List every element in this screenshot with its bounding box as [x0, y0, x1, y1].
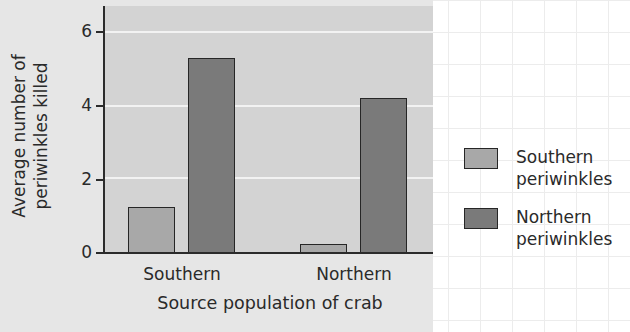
- y-tick-label-4: 4: [72, 97, 92, 114]
- x-category-northern: Northern: [284, 264, 424, 284]
- y-tick-6: [96, 31, 104, 33]
- y-tick-label-0: 0: [72, 244, 92, 261]
- y-axis-title-line-2: periwinkles killed: [30, 6, 52, 266]
- legend-label-northern: Northern periwinkles: [516, 206, 612, 250]
- y-tick-4: [96, 105, 104, 107]
- bar-southern-crab-northern-periwinkles: [188, 58, 235, 253]
- legend-label-southern: Southern periwinkles: [516, 146, 612, 190]
- y-axis-title-line-1: Average number of: [8, 6, 30, 266]
- legend-swatch-southern: [464, 148, 498, 169]
- y-axis-title: Average number of periwinkles killed: [8, 6, 52, 266]
- legend-label-northern-line-2: periwinkles: [516, 228, 612, 250]
- legend-label-southern-line-1: Southern: [516, 146, 612, 168]
- bar-northern-crab-northern-periwinkles: [360, 98, 407, 253]
- y-tick-0: [96, 252, 104, 254]
- y-tick-label-2: 2: [72, 171, 92, 188]
- legend-swatch-northern: [464, 208, 498, 229]
- legend-label-northern-line-1: Northern: [516, 206, 612, 228]
- y-axis: [103, 6, 105, 254]
- x-category-southern: Southern: [112, 264, 252, 284]
- legend-label-southern-line-2: periwinkles: [516, 168, 612, 190]
- y-tick-label-6: 6: [72, 23, 92, 40]
- x-axis: [103, 252, 433, 254]
- x-axis-title: Source population of crab: [110, 293, 430, 313]
- bar-southern-crab-southern-periwinkles: [128, 207, 175, 253]
- y-tick-2: [96, 179, 104, 181]
- gridline-6: [105, 31, 433, 33]
